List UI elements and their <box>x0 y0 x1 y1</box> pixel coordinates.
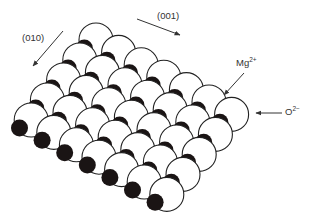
o-charge: 2− <box>292 105 299 112</box>
label-mg-ion: Mg2+ <box>236 56 257 68</box>
direction-010-text: (010) <box>22 32 44 43</box>
mg-charge: 2+ <box>249 56 256 63</box>
mg-text: Mg <box>236 57 249 68</box>
magnesium-cation-sphere <box>34 132 51 149</box>
direction-001-arrow <box>137 19 180 35</box>
magnesium-cation-sphere <box>101 169 118 186</box>
magnesium-cation-sphere <box>11 119 28 136</box>
direction-001-text: (001) <box>157 10 179 21</box>
label-o-ion: O2− <box>285 105 300 117</box>
label-direction-010: (010) <box>22 32 44 43</box>
magnesium-cation-sphere <box>79 157 96 174</box>
magnesium-cation-sphere <box>56 144 73 161</box>
label-direction-001: (001) <box>157 10 179 21</box>
magnesium-cation-sphere <box>124 181 141 198</box>
mg-pointer-arrow <box>224 73 244 95</box>
mgo-surface-diagram <box>0 0 310 221</box>
crystal-lattice <box>11 23 249 211</box>
magnesium-cation-sphere <box>147 194 164 211</box>
